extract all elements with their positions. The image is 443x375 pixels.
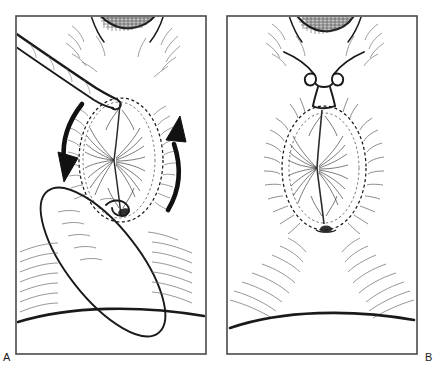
lower-hatching-a [20,232,192,312]
closed-tissue-b [288,110,348,224]
panel-label-b: B [425,352,433,363]
panel-b [227,6,417,354]
dashed-incision-oval-a [79,98,163,222]
suture-knot-b[interactable] [305,73,343,108]
panel-b-frame [227,16,417,354]
panel-label-a: A [3,352,11,363]
flap-hatching-a [58,199,116,261]
suture-threads-b [284,52,364,74]
panel-a-content [6,6,204,355]
panel-a [6,6,206,355]
illustration-canvas [0,0,443,375]
rotated-flap-ellipse-a [19,169,187,355]
flap-pedicle-a [106,201,131,217]
rotation-arrow-left-a[interactable] [58,104,82,182]
rotation-arrow-right-a[interactable] [166,116,186,210]
panel-b-content [230,6,414,328]
dashed-closure-oval-b [282,106,366,230]
base-contour-arc-b [230,313,414,328]
lower-hatching-b [230,238,414,318]
figure-root: A B [0,0,443,375]
top-anatomy-region-b [266,6,384,66]
